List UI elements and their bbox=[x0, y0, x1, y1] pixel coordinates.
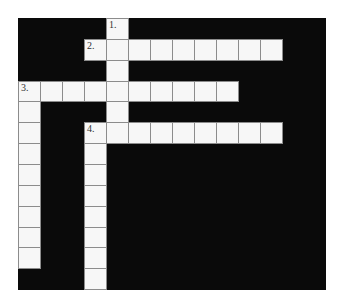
clue-number: 1. bbox=[109, 20, 117, 30]
crossword-cell[interactable] bbox=[18, 185, 41, 207]
crossword-cell[interactable] bbox=[84, 247, 107, 269]
crossword-cell[interactable]: 2. bbox=[84, 39, 107, 61]
crossword-cell[interactable] bbox=[216, 122, 239, 144]
crossword-cell[interactable]: 4. bbox=[84, 122, 107, 144]
crossword-cell[interactable] bbox=[62, 81, 85, 102]
crossword-cell[interactable] bbox=[172, 122, 195, 144]
crossword-cell[interactable] bbox=[40, 81, 63, 102]
crossword-cell[interactable]: 3. bbox=[18, 81, 41, 102]
crossword-cell[interactable] bbox=[84, 143, 107, 165]
crossword-cell[interactable] bbox=[84, 268, 107, 290]
crossword-cell[interactable] bbox=[150, 81, 173, 102]
clue-number: 3. bbox=[21, 83, 29, 93]
crossword-cell[interactable] bbox=[84, 164, 107, 186]
crossword-cell[interactable] bbox=[106, 101, 129, 123]
crossword-cell[interactable] bbox=[194, 81, 217, 102]
crossword-cell[interactable] bbox=[106, 81, 129, 102]
crossword-cell[interactable] bbox=[216, 81, 239, 102]
crossword-cell[interactable] bbox=[150, 122, 173, 144]
crossword-cell[interactable] bbox=[216, 39, 239, 61]
crossword-grid: 1.2.3.4. bbox=[18, 18, 326, 290]
crossword-cell[interactable] bbox=[172, 81, 195, 102]
crossword-cell[interactable] bbox=[84, 227, 107, 248]
crossword-cell[interactable] bbox=[18, 122, 41, 144]
crossword-cell[interactable] bbox=[260, 39, 283, 61]
crossword-cell[interactable] bbox=[172, 39, 195, 61]
clue-number: 2. bbox=[87, 41, 95, 51]
crossword-cell[interactable] bbox=[260, 122, 283, 144]
crossword-cell[interactable] bbox=[194, 122, 217, 144]
crossword-cell[interactable] bbox=[238, 39, 261, 61]
crossword-cell[interactable] bbox=[18, 227, 41, 248]
crossword-cell[interactable] bbox=[18, 247, 41, 269]
crossword-cell[interactable] bbox=[128, 39, 151, 61]
crossword-cell[interactable] bbox=[84, 185, 107, 207]
crossword-cell[interactable] bbox=[106, 122, 129, 144]
crossword-cell[interactable] bbox=[84, 81, 107, 102]
crossword-cell[interactable] bbox=[18, 143, 41, 165]
crossword-cell[interactable] bbox=[128, 122, 151, 144]
crossword-cell[interactable] bbox=[128, 81, 151, 102]
crossword-cell[interactable] bbox=[18, 164, 41, 186]
crossword-cell[interactable] bbox=[18, 101, 41, 123]
crossword-cell[interactable] bbox=[106, 60, 129, 82]
crossword-cell[interactable] bbox=[238, 122, 261, 144]
crossword-cell[interactable] bbox=[150, 39, 173, 61]
crossword-cell[interactable] bbox=[194, 39, 217, 61]
clue-number: 4. bbox=[87, 124, 95, 134]
crossword-cell[interactable] bbox=[106, 39, 129, 61]
crossword-cell[interactable]: 1. bbox=[106, 18, 129, 40]
crossword-cell[interactable] bbox=[18, 206, 41, 228]
crossword-cell[interactable] bbox=[84, 206, 107, 228]
